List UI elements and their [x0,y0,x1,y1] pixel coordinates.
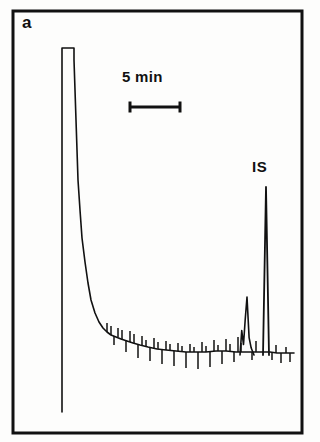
chromatogram-figure: a 5 min IS [0,0,320,442]
scale-bar-label: 5 min [122,68,163,85]
panel-label: a [22,14,32,31]
internal-standard-label: IS [252,158,267,175]
chromatogram-plot [0,0,320,442]
figure-background [0,0,320,442]
